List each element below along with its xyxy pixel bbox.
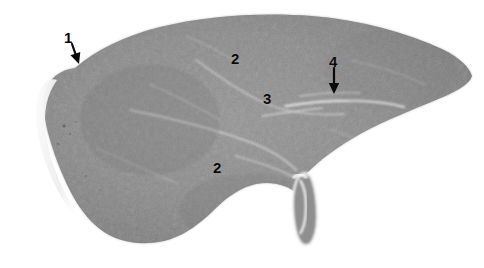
annotation-layer: 1 2 3 4 2 [0,0,484,268]
callout-arrow-4[interactable] [0,0,484,268]
callout-label-2-lower[interactable]: 2 [213,160,221,175]
figure-root: 1 2 3 4 2 [0,0,484,268]
